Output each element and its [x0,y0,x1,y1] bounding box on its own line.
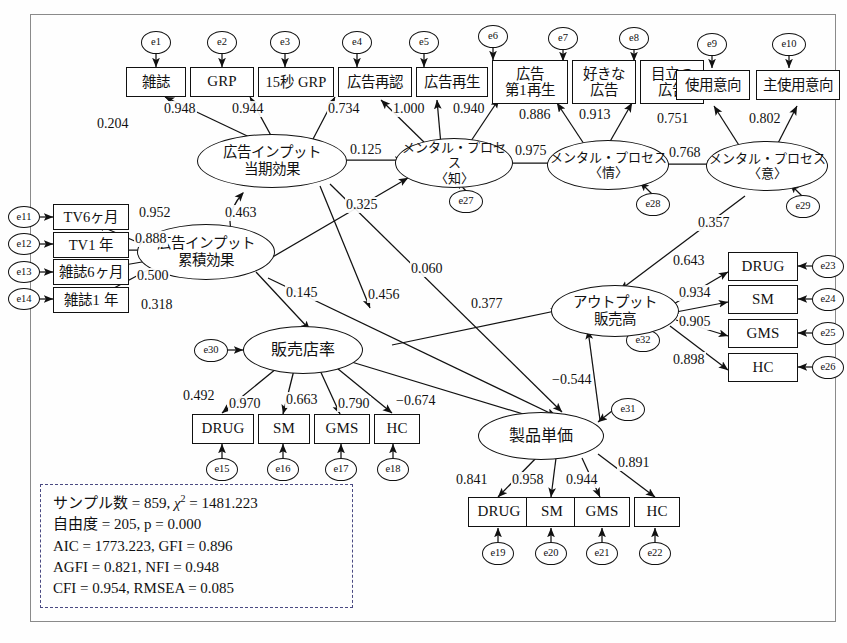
latent-node-mental-cognition[interactable]: メンタル・プロセス 〈知〉 [395,138,513,188]
error-label: e18 [385,464,400,475]
coefficient-ad-grp15: 0.944 [231,101,265,117]
error-node-e24[interactable]: e24 [812,288,844,311]
error-node-e22[interactable]: e22 [639,542,671,565]
observed-node-price-drug[interactable]: DRUG [468,497,530,527]
error-label: e27 [458,196,473,207]
observed-node-price-hc[interactable]: HC [634,497,680,527]
error-label: e1 [151,37,161,48]
node-label: HC [386,421,407,436]
observed-node-tv1y[interactable]: TV1 年 [53,232,129,258]
error-label: e22 [647,548,662,559]
coefficient-cum-mag6m: 0.500 [136,268,170,284]
node-label-line1: メンタル・プロセス [550,150,667,165]
observed-node-output-gms[interactable]: GMS [728,319,798,348]
node-label-line2: 第1再生 [505,82,555,98]
error-label: e26 [820,362,835,373]
error-label: e9 [707,39,717,50]
observed-node-store-hc[interactable]: HC [374,414,420,444]
error-node-e8[interactable]: e8 [619,27,649,50]
observed-node-output-sm[interactable]: SM [728,285,798,314]
coefficient-adcur-cog: 0.125 [349,142,383,158]
fit-stat-line-5: CFI = 0.954, RMSEA = 0.085 [53,578,342,599]
error-node-e2[interactable]: e2 [207,31,237,54]
error-node-e9[interactable]: e9 [697,33,727,56]
node-label: SM [541,504,563,519]
observed-node-liked-ad[interactable]: 好きな 広告 [572,60,636,104]
error-node-e11[interactable]: e11 [8,206,40,228]
observed-node-mag6m[interactable]: 雑誌6ヶ月 [53,259,129,285]
node-label-line2: 累積効果 [178,252,234,269]
latent-node-mental-affect[interactable]: メンタル・プロセス 〈情〉 [547,140,669,190]
coefficient-output-sm: 0.934 [678,285,712,301]
observed-node-store-drug[interactable]: DRUG [192,414,254,444]
node-label-line1: アウトプット [573,294,657,311]
error-node-e25[interactable]: e25 [812,322,844,345]
error-node-e12[interactable]: e12 [8,233,40,255]
error-label: e8 [629,33,639,44]
observed-node-tv6m[interactable]: TV6ヶ月 [53,204,129,230]
latent-node-mental-intention[interactable]: メンタル・プロセス 〈意〉 [706,141,828,191]
node-label-line2: 〈意〉 [748,166,787,181]
observed-node-ad-first-recall[interactable]: 広告 第1再生 [492,60,568,104]
error-node-e27[interactable]: e27 [449,190,483,213]
observed-node-price-gms[interactable]: GMS [574,497,630,527]
observed-node-grp15[interactable]: 15秒 GRP [258,67,334,97]
node-label-line1: 広告 [516,66,544,82]
observed-node-output-drug[interactable]: DRUG [728,252,798,281]
error-node-e31[interactable]: e31 [611,398,645,421]
node-label-line1: メンタル・プロセス [709,151,826,166]
error-node-e15[interactable]: e15 [206,458,238,481]
error-node-e18[interactable]: e18 [377,458,409,481]
error-node-e3[interactable]: e3 [270,31,300,54]
error-node-e1[interactable]: e1 [141,31,171,54]
observed-node-use-intent[interactable]: 使用意向 [676,70,750,100]
observed-node-grp[interactable]: GRP [190,67,254,97]
coefficient-price-gms: 0.944 [565,472,599,488]
error-node-e21[interactable]: e21 [586,542,618,565]
error-label: e6 [488,31,498,42]
error-node-e13[interactable]: e13 [8,261,40,283]
node-label: SM [273,421,295,436]
error-label: e5 [419,37,429,48]
error-node-e26[interactable]: e26 [812,356,844,379]
error-node-e10[interactable]: e10 [772,33,806,56]
error-label: e31 [620,404,635,415]
observed-node-store-sm[interactable]: SM [258,414,310,444]
error-node-e6[interactable]: e6 [478,25,508,48]
error-node-e28[interactable]: e28 [636,193,670,216]
observed-node-price-sm[interactable]: SM [526,497,578,527]
latent-node-ad-input-current[interactable]: 広告インプット 当期効果 [197,134,347,188]
error-node-e19[interactable]: e19 [482,542,514,565]
latent-node-output-sales[interactable]: アウトプット 販売高 [551,285,679,337]
error-node-e7[interactable]: e7 [548,27,578,50]
error-node-e20[interactable]: e20 [535,542,567,565]
node-label-line1: 広告インプット [157,235,255,252]
latent-node-store-rate[interactable]: 販売店率 [243,326,363,374]
observed-node-main-use-intent[interactable]: 主使用意向 [756,70,840,100]
node-label: 販売店率 [271,341,335,360]
observed-node-mag1y[interactable]: 雑誌1 年 [53,287,129,313]
error-node-e23[interactable]: e23 [812,255,844,278]
error-node-e17[interactable]: e17 [325,458,357,481]
node-label-line2: 〈情〉 [589,165,628,180]
diagram-canvas: e1 e2 e3 e4 e5 e6 e7 e8 e9 e10 e11 e12 e… [0,0,847,643]
error-node-e29[interactable]: e29 [786,195,820,218]
observed-node-magazine[interactable]: 雑誌 [126,67,186,97]
error-label: e14 [16,294,31,305]
error-label: e10 [781,39,796,50]
node-label-line1: 広告インプット [223,144,321,161]
fit-sample-size: サンプル数 = 859, [53,495,170,511]
observed-node-store-gms[interactable]: GMS [314,414,370,444]
error-node-e5[interactable]: e5 [409,31,439,54]
error-node-e14[interactable]: e14 [8,288,40,310]
observed-node-ad-recall[interactable]: 広告再生 [416,67,488,97]
coefficient-cum-tv1y: 0.888 [134,231,168,247]
error-node-e4[interactable]: e4 [342,31,372,54]
error-label: e3 [280,37,290,48]
error-node-e30[interactable]: e30 [194,339,228,362]
observed-node-output-hc[interactable]: HC [728,353,798,382]
fit-stat-line-1: サンプル数 = 859, χ2 = 1481.223 [53,492,342,514]
observed-node-ad-recognition[interactable]: 広告再認 [338,67,412,97]
error-node-e16[interactable]: e16 [267,458,299,481]
latent-node-unit-price[interactable]: 製品単価 [478,412,604,460]
